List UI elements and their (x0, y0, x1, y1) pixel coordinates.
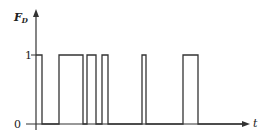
y-tick-label-0: 0 (14, 119, 21, 130)
y-axis-label: FD (14, 12, 28, 24)
pulse-chart (0, 0, 264, 138)
x-axis-label: t (253, 118, 257, 129)
pulse-train (36, 55, 247, 124)
y-tick-label-1: 1 (25, 50, 32, 61)
y-axis-arrow-icon (33, 9, 39, 17)
